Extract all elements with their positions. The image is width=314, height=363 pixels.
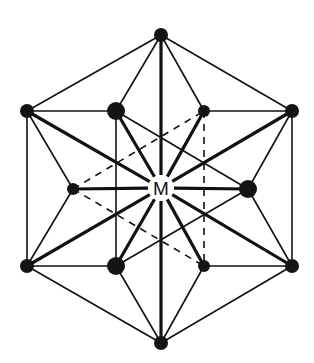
atom-ur (285, 104, 299, 118)
atom-mr (239, 180, 257, 198)
atom-lr (285, 259, 299, 273)
bond-line (172, 195, 292, 266)
edge-line (116, 35, 161, 111)
coordination-polyhedron-diagram: M (0, 0, 314, 363)
bond-line (27, 111, 150, 182)
edge-line (27, 35, 161, 111)
atom-umr (198, 105, 210, 117)
edge-line (27, 266, 161, 343)
atom-top (154, 28, 168, 42)
edge-line (161, 266, 204, 343)
edge-line (161, 266, 292, 343)
atom-ll (20, 259, 34, 273)
atom-lmr (198, 260, 210, 272)
atom-ul (20, 104, 34, 118)
bond-line (73, 188, 148, 189)
center-metal-label: M (153, 178, 169, 199)
atom-ml (67, 183, 79, 195)
bond-line (174, 188, 248, 189)
edge-line (161, 35, 292, 111)
edge-line (161, 35, 204, 111)
edge-line (116, 266, 161, 343)
atom-bottom (154, 336, 168, 350)
atom-lml (107, 257, 125, 275)
bond-line (172, 111, 292, 181)
atom-uml (107, 102, 125, 120)
bond-line (27, 195, 150, 266)
